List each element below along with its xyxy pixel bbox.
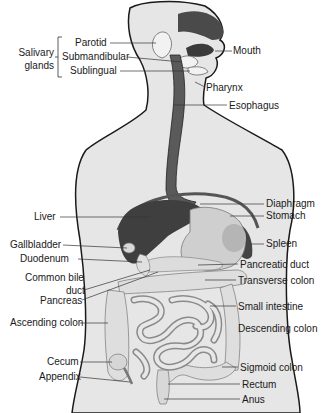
label-diaphragm: Diaphragm <box>266 198 315 209</box>
label-parotid: Parotid <box>75 37 107 48</box>
label-salivary-line2: glands <box>8 59 54 72</box>
label-appendix: Appendix <box>39 371 81 382</box>
label-anus: Anus <box>242 394 265 405</box>
label-small-intestine: Small intestine <box>238 301 303 312</box>
salivary-bracket <box>55 37 62 77</box>
label-descending-colon: Descending colon <box>238 323 318 334</box>
label-cecum: Cecum <box>47 356 79 367</box>
label-transverse-colon: Transverse colon <box>238 275 314 286</box>
stomach-fundus <box>222 224 246 252</box>
label-rectum: Rectum <box>242 379 276 390</box>
label-submandibular: Submandibular <box>62 51 129 62</box>
label-liver: Liver <box>34 211 56 222</box>
label-spleen: Spleen <box>266 238 297 249</box>
label-sigmoid-colon: Sigmoid colon <box>240 362 303 373</box>
label-duodenum: Duodenum <box>20 253 69 264</box>
label-pancreatic-duct: Pancreatic duct <box>240 259 309 270</box>
label-salivary-line1: Salivary <box>8 46 54 59</box>
label-salivary-glands: Salivary glands <box>8 46 54 72</box>
label-common-bile: Common bile <box>25 272 84 283</box>
label-mouth: Mouth <box>233 45 261 56</box>
label-stomach: Stomach <box>266 210 305 221</box>
label-gallbladder: Gallbladder <box>10 239 61 250</box>
label-sublingual: Sublingual <box>70 65 117 76</box>
label-esophagus: Esophagus <box>229 100 279 111</box>
label-pharynx: Pharynx <box>206 82 243 93</box>
label-pancreas: Pancreas <box>40 295 82 306</box>
label-ascending-colon: Ascending colon <box>10 317 83 328</box>
